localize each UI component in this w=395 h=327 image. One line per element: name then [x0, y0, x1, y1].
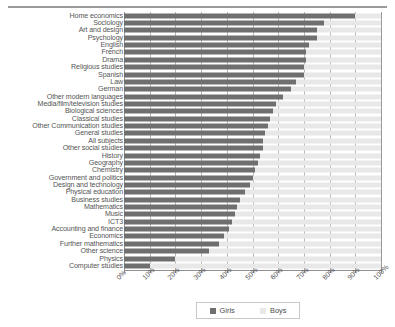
bar-segment-girls	[124, 138, 263, 143]
bar-segment-boys	[265, 131, 381, 136]
bar-segment-boys	[355, 13, 381, 18]
bar-segment-girls	[124, 72, 304, 77]
bar-track	[124, 249, 381, 254]
bar-segment-girls	[124, 131, 265, 136]
bar-row: Physical education	[0, 189, 395, 196]
bar-row: All subjects	[0, 137, 395, 144]
bar-track	[124, 43, 381, 48]
bar-row: Computer studies	[0, 262, 395, 269]
bar-segment-girls	[124, 28, 317, 33]
bar-segment-girls	[124, 219, 232, 224]
bar-track	[124, 65, 381, 70]
bar-track	[124, 153, 381, 158]
bar-track	[124, 212, 381, 217]
legend-swatch-boys	[260, 308, 266, 314]
bar-segment-boys	[296, 79, 381, 84]
bar-track	[124, 146, 381, 151]
bar-segment-girls	[124, 160, 258, 165]
bar-segment-boys	[245, 190, 381, 195]
bar-row: Media/film/television studies	[0, 100, 395, 107]
bar-track	[124, 219, 381, 224]
bar-segment-boys	[175, 256, 381, 261]
legend-item-girls[interactable]: Girls	[210, 306, 235, 315]
bar-segment-boys	[306, 50, 381, 55]
bar-track	[124, 50, 381, 55]
bar-segment-boys	[317, 35, 381, 40]
bar-track	[124, 241, 381, 246]
bar-row: General studies	[0, 130, 395, 137]
bar-track	[124, 168, 381, 173]
bar-segment-boys	[283, 94, 381, 99]
bar-segment-boys	[260, 153, 381, 158]
bar-segment-boys	[273, 109, 381, 114]
legend-item-boys[interactable]: Boys	[260, 306, 286, 315]
bar-track	[124, 234, 381, 239]
bar-segment-girls	[124, 168, 255, 173]
bar-segment-boys	[235, 212, 381, 217]
legend-swatch-girls	[210, 308, 216, 314]
bar-segment-girls	[124, 241, 219, 246]
bar-segment-girls	[124, 116, 270, 121]
bar-track	[124, 28, 381, 33]
bar-segment-girls	[124, 175, 253, 180]
bar-row: Home economics	[0, 12, 395, 19]
stacked-bar-chart: Home economicsSociologyArt and designPsy…	[0, 0, 395, 327]
bar-row: Psychology	[0, 34, 395, 41]
bar-segment-boys	[229, 227, 381, 232]
bar-rows: Home economicsSociologyArt and designPsy…	[0, 12, 395, 270]
bar-segment-boys	[150, 263, 381, 268]
bar-segment-girls	[124, 94, 283, 99]
bar-track	[124, 35, 381, 40]
bar-segment-girls	[124, 79, 296, 84]
bar-row: Spanish	[0, 71, 395, 78]
bar-segment-girls	[124, 43, 309, 48]
bar-track	[124, 94, 381, 99]
bar-segment-girls	[124, 124, 268, 129]
bar-track	[124, 109, 381, 114]
bar-track	[124, 190, 381, 195]
bar-row: Accounting and finance	[0, 225, 395, 232]
bar-track	[124, 79, 381, 84]
bar-row: Physics	[0, 255, 395, 262]
bar-segment-girls	[124, 249, 209, 254]
bar-track	[124, 182, 381, 187]
bar-row: History	[0, 152, 395, 159]
bar-row: Religious studies	[0, 64, 395, 71]
bar-segment-boys	[253, 175, 382, 180]
bar-segment-boys	[268, 124, 381, 129]
bar-segment-girls	[124, 197, 240, 202]
plot-area: Home economicsSociologyArt and designPsy…	[0, 12, 395, 270]
bar-track	[124, 57, 381, 62]
bar-segment-girls	[124, 57, 306, 62]
bar-row: Mathematics	[0, 203, 395, 210]
bar-segment-boys	[304, 65, 381, 70]
bar-track	[124, 197, 381, 202]
bar-segment-boys	[306, 57, 381, 62]
bar-track	[124, 138, 381, 143]
bar-track	[124, 21, 381, 26]
bar-row: Music	[0, 211, 395, 218]
bar-segment-boys	[219, 241, 381, 246]
bar-row: Design and technology	[0, 181, 395, 188]
bar-segment-girls	[124, 65, 304, 70]
bar-track	[124, 87, 381, 92]
bar-track	[124, 131, 381, 136]
bar-segment-boys	[209, 249, 381, 254]
bar-track	[124, 256, 381, 261]
bar-row: Sociology	[0, 19, 395, 26]
bar-segment-boys	[255, 168, 381, 173]
bar-track	[124, 101, 381, 106]
bar-segment-girls	[124, 212, 235, 217]
bar-segment-boys	[240, 197, 381, 202]
bar-segment-boys	[291, 87, 381, 92]
bar-segment-boys	[263, 138, 381, 143]
header-divider	[8, 6, 387, 8]
bar-segment-girls	[124, 205, 237, 210]
bar-segment-girls	[124, 263, 150, 268]
bar-track	[124, 116, 381, 121]
bar-row: Other Communication studies	[0, 122, 395, 129]
bar-track	[124, 160, 381, 165]
chart-legend: Girls Boys	[196, 302, 300, 319]
bar-segment-girls	[124, 190, 245, 195]
bar-segment-boys	[270, 116, 381, 121]
